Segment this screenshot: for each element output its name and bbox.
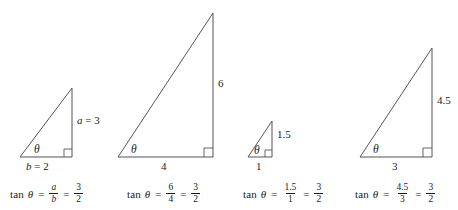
formula-2-ratio-denominator: 4 <box>166 193 175 205</box>
formula-4-equals2: = <box>413 188 423 200</box>
triangle-1-shape <box>20 88 72 157</box>
formula-4-ratio-numerator: 4.5 <box>394 183 410 194</box>
formula-1-ratio-numerator: a <box>49 183 58 194</box>
formula-2: tan θ = 6 4 = 3 2 <box>127 183 200 205</box>
formula-3-result-denominator: 2 <box>314 193 323 205</box>
triangle-3-outline <box>248 121 272 157</box>
formula-4-ratio-denominator: 3 <box>398 193 407 205</box>
triangle-3-shape <box>248 121 272 157</box>
triangles-svg <box>0 0 458 210</box>
formula-2-result: 3 2 <box>191 183 200 205</box>
triangle-4-height-label: 4.5 <box>437 95 451 106</box>
triangle-2-shape <box>118 13 213 157</box>
triangle-2-right-angle-icon <box>204 148 213 157</box>
triangle-1-base-label: b = 2 <box>26 161 49 172</box>
formula-1-result: 3 2 <box>74 183 83 205</box>
triangle-1-height-label: a = 3 <box>77 115 100 126</box>
triangle-2-base-label: 4 <box>161 161 167 172</box>
formula-3-ratio-denominator: 1 <box>286 193 295 205</box>
formula-4-equals: = <box>381 188 391 200</box>
formula-2-ratio-numerator: 6 <box>166 183 175 194</box>
formula-4-result-numerator: 3 <box>426 183 435 194</box>
formula-2-result-denominator: 2 <box>191 193 200 205</box>
formula-1-equals: = <box>36 188 46 200</box>
formula-3-result-numerator: 3 <box>314 183 323 194</box>
formula-1-theta: θ <box>27 188 33 200</box>
formula-3-ratio: 1.5 1 <box>282 183 298 205</box>
formula-4-result: 3 2 <box>426 183 435 205</box>
formula-1-ratio: a b <box>49 183 58 205</box>
formula-3: tan θ = 1.5 1 = 3 2 <box>243 183 323 205</box>
triangle-4-base-label: 3 <box>392 161 398 172</box>
triangle-4-shape <box>360 48 432 157</box>
formula-4-ratio: 4.5 3 <box>394 183 410 205</box>
triangle-3-right-angle-icon <box>265 150 272 157</box>
formula-3-theta: θ <box>260 188 266 200</box>
triangle-4-outline <box>360 48 432 157</box>
formula-2-equals: = <box>153 188 163 200</box>
triangle-1-right-angle-icon <box>64 149 72 157</box>
formula-3-ratio-numerator: 1.5 <box>282 183 298 194</box>
formula-2-ratio: 6 4 <box>166 183 175 205</box>
formula-4-theta: θ <box>372 188 378 200</box>
triangle-1-angle-label: θ <box>34 144 40 156</box>
formula-4-result-denominator: 2 <box>426 193 435 205</box>
triangle-4-right-angle-icon <box>423 148 432 157</box>
formula-4: tan θ = 4.5 3 = 3 2 <box>355 183 435 205</box>
formula-1-result-numerator: 3 <box>74 183 83 194</box>
formula-3-fn: tan <box>243 188 257 200</box>
formula-2-fn: tan <box>127 188 141 200</box>
triangle-2-height-label: 6 <box>218 78 224 89</box>
formula-3-equals2: = <box>301 188 311 200</box>
triangle-2-outline <box>118 13 213 157</box>
formula-4-fn: tan <box>355 188 369 200</box>
similar-triangles-figure: θ b = 2 a = 3 θ 4 6 θ 1 1.5 θ 3 4.5 tan … <box>0 0 458 210</box>
formula-1: tan θ = a b = 3 2 <box>10 183 83 205</box>
formula-3-result: 3 2 <box>314 183 323 205</box>
formula-2-theta: θ <box>144 188 150 200</box>
formula-1-ratio-denominator: b <box>49 193 58 205</box>
triangle-3-base-label: 1 <box>256 161 262 172</box>
triangle-3-height-label: 1.5 <box>277 129 291 140</box>
formula-2-equals2: = <box>178 188 188 200</box>
formula-1-equals2: = <box>61 188 71 200</box>
formula-3-equals: = <box>269 188 279 200</box>
triangle-4-angle-label: θ <box>373 144 379 156</box>
triangle-1-outline <box>20 88 72 157</box>
formula-1-fn: tan <box>10 188 24 200</box>
triangle-2-angle-label: θ <box>131 144 137 156</box>
formula-1-result-denominator: 2 <box>74 193 83 205</box>
formula-2-result-numerator: 3 <box>191 183 200 194</box>
triangle-3-angle-label: θ <box>254 145 260 157</box>
